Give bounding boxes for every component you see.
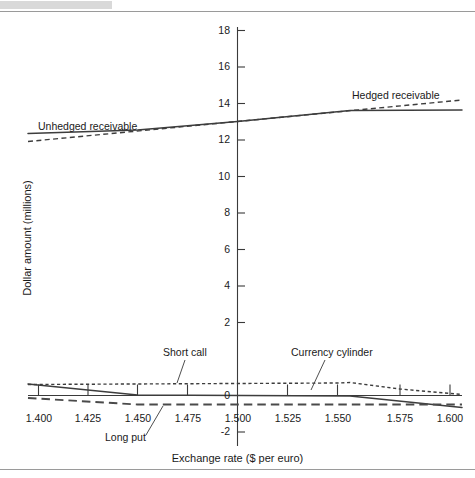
currency-cylinder-leader-line bbox=[311, 360, 325, 390]
y-tick-label-12: 12 bbox=[204, 133, 230, 145]
y-tick-label-10: 10 bbox=[204, 170, 230, 182]
y-tick-label-8: 8 bbox=[204, 206, 230, 218]
x-tick-label-1-600: 1.600 bbox=[425, 412, 475, 424]
annotation-short-call: Short call bbox=[163, 346, 207, 358]
x-tick-label-1-500: 1.500 bbox=[213, 412, 263, 424]
y-tick-label-14: 14 bbox=[204, 97, 230, 109]
x-tick-label-1-525: 1.525 bbox=[263, 412, 313, 424]
annotation-unhedged-receivable: Unhedged receivable bbox=[38, 120, 137, 132]
figure-root: 18 16 14 12 10 8 6 4 2 0 -2 1.400 1.425 … bbox=[0, 0, 475, 478]
y-tick-label-0: 0 bbox=[204, 389, 230, 401]
y-axis-title: Dollar amount (millions) bbox=[21, 163, 33, 313]
chart-plot-area bbox=[0, 0, 475, 478]
annotation-currency-cylinder: Currency cylinder bbox=[291, 346, 373, 358]
x-tick-label-1-400: 1.400 bbox=[14, 412, 64, 424]
short-call-leader-line bbox=[177, 360, 185, 383]
y-tick-label-16: 16 bbox=[204, 60, 230, 72]
x-tick-label-1-450: 1.450 bbox=[113, 412, 163, 424]
x-axis-ticks bbox=[39, 385, 451, 396]
annotation-hedged-receivable: Hedged receivable bbox=[352, 89, 440, 101]
y-axis-ticks bbox=[238, 31, 246, 433]
x-axis-title: Exchange rate ($ per euro) bbox=[0, 452, 475, 464]
y-tick-label-2: 2 bbox=[204, 316, 230, 328]
x-tick-label-1-425: 1.425 bbox=[63, 412, 113, 424]
x-tick-label-1-475: 1.475 bbox=[163, 412, 213, 424]
y-tick-label-4: 4 bbox=[204, 279, 230, 291]
x-tick-label-1-550: 1.550 bbox=[313, 412, 363, 424]
y-tick-label-6: 6 bbox=[204, 243, 230, 255]
series-currency-cylinder bbox=[28, 383, 462, 395]
x-tick-label-1-575: 1.575 bbox=[375, 412, 425, 424]
y-tick-label-neg2: -2 bbox=[200, 425, 230, 437]
y-tick-label-18: 18 bbox=[204, 24, 230, 36]
annotation-long-put: Long put bbox=[105, 431, 146, 443]
